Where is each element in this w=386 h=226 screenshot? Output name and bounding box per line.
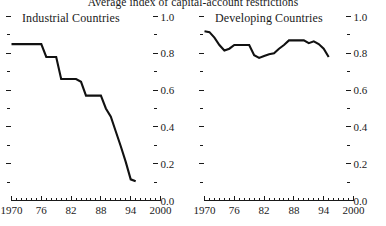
data-line-developing	[205, 31, 329, 58]
plot-area-industrial-countries: 19707682889420001.00.80.60.40.20.0	[0, 0, 193, 226]
panel-developing-countries: Developing Countries 19707682889420001.0…	[193, 0, 386, 226]
x-tick-label: 88	[95, 204, 107, 216]
x-tick-label: 1970	[1, 204, 24, 216]
panel-industrial-countries: Industrial Countries 19707682889420001.0…	[0, 0, 193, 226]
x-tick-label: 88	[288, 204, 300, 216]
data-line-industrial	[12, 44, 136, 181]
x-tick-label: 76	[36, 204, 48, 216]
x-tick-label: 1970	[194, 204, 217, 216]
x-tick-label: 82	[66, 204, 77, 216]
y-tick-label: 0.8	[161, 47, 175, 59]
x-tick-label: 82	[259, 204, 270, 216]
y-tick-label: 0.8	[354, 47, 368, 59]
x-tick-label: 76	[229, 204, 241, 216]
y-tick-label: 1.0	[161, 11, 175, 23]
y-tick-label: 0.6	[354, 84, 368, 96]
y-tick-label: 0.4	[354, 121, 368, 133]
y-tick-label: 0.0	[354, 195, 368, 207]
y-tick-label: 0.4	[161, 121, 175, 133]
y-tick-label: 0.2	[161, 158, 175, 170]
y-tick-label: 0.0	[161, 195, 175, 207]
y-tick-label: 0.6	[161, 84, 175, 96]
y-tick-label: 1.0	[354, 11, 368, 23]
x-tick-label: 94	[125, 204, 137, 216]
y-tick-label: 0.2	[354, 158, 368, 170]
plot-area-developing-countries: 19707682889420001.00.80.60.40.20.0	[193, 0, 386, 226]
chart-figure: Average index of capital-account restric…	[0, 0, 386, 226]
x-tick-label: 94	[318, 204, 330, 216]
